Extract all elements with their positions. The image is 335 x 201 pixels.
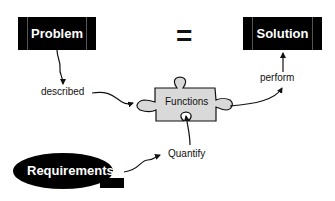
problem-node-divider-left	[27, 17, 28, 50]
functions-node-label: Functions	[165, 96, 208, 107]
solution-node: Solution	[243, 17, 322, 50]
problem-node-divider-right	[86, 17, 87, 50]
quantify-label: Quantify	[168, 148, 205, 159]
solution-node-divider-right	[312, 17, 313, 50]
requirements-node-label: Requirements	[27, 163, 114, 178]
problem-node-label: Problem	[31, 26, 83, 41]
equals-symbol: =	[176, 22, 192, 50]
described-label: described	[41, 86, 84, 97]
arrow-functions-to-perform	[230, 88, 282, 106]
perform-label: perform	[260, 72, 294, 83]
arrow-described-to-functions	[92, 92, 133, 104]
solution-node-label: Solution	[257, 26, 309, 41]
arrow-requirements-to-quantify	[124, 155, 160, 172]
solution-node-divider-left	[252, 17, 253, 50]
arrow-problem-to-described	[57, 50, 63, 84]
problem-node: Problem	[18, 17, 96, 50]
